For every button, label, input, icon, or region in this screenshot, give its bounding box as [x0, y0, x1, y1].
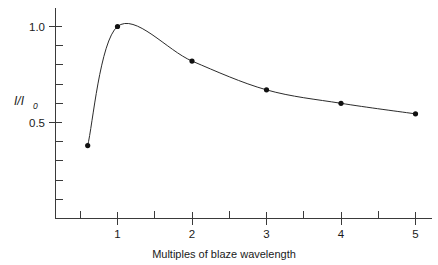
data-point	[413, 111, 418, 116]
data-point	[85, 143, 90, 148]
y-axis-title: I/I 0	[14, 94, 38, 111]
x-axis-title: Multiples of blaze wavelength	[152, 248, 296, 260]
y-tick-label-0.5: 0.5	[29, 117, 45, 129]
x-tick-label-5: 5	[412, 228, 418, 240]
x-tick-label-2: 2	[189, 228, 195, 240]
data-point	[115, 24, 120, 29]
x-tick-label-1: 1	[114, 228, 120, 240]
data-point	[338, 101, 343, 106]
y-tick-label-1.0: 1.0	[29, 21, 45, 33]
data-point	[264, 87, 269, 92]
x-tick-label-3: 3	[263, 228, 269, 240]
y-axis-title-main: I/I	[14, 94, 25, 108]
data-point	[189, 58, 194, 63]
x-minor-ticks	[80, 211, 378, 219]
chart-canvas: 1.0 0.5 I/I 0 1 2 3 4 5 Multip	[0, 0, 438, 265]
data-series-line	[88, 23, 416, 145]
data-point-markers	[85, 24, 418, 148]
x-tick-label-4: 4	[338, 228, 345, 240]
axes-group	[56, 8, 433, 219]
y-axis-title-subscript: 0	[33, 101, 38, 111]
chart-figure: 1.0 0.5 I/I 0 1 2 3 4 5 Multip	[0, 0, 438, 265]
